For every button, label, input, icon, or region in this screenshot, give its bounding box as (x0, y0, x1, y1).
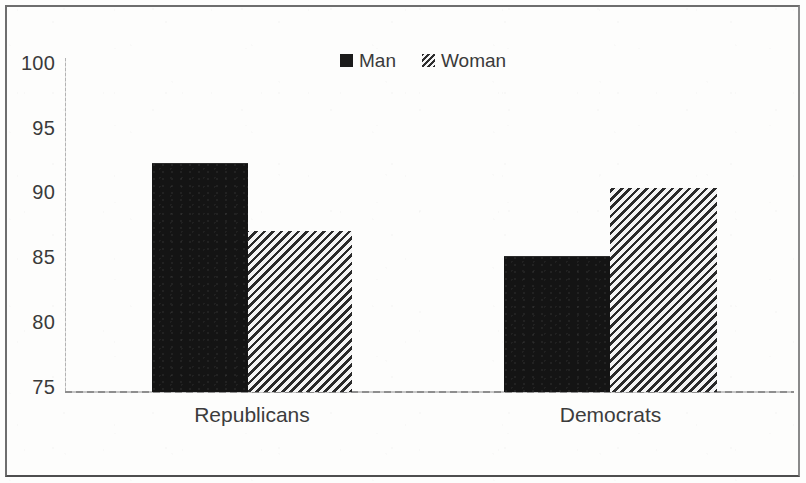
y-tick-label-85: 85 (32, 247, 55, 267)
y-tick-label-100: 100 (21, 53, 55, 73)
chart-legend: Man Woman (340, 48, 506, 72)
y-tick-label-75: 75 (32, 377, 55, 397)
legend-entry-woman: Woman (422, 51, 506, 70)
chart-plot-area: Man Woman 100 95 90 85 80 75 Republicans… (0, 0, 806, 483)
bar-democrats-man (504, 256, 610, 392)
bar-chart-figure: Man Woman 100 95 90 85 80 75 Republicans… (0, 0, 806, 483)
y-tick-label-90: 90 (32, 182, 55, 202)
bar-democrats-woman (610, 188, 717, 392)
y-tick-label-80: 80 (32, 312, 55, 332)
category-label-democrats: Democrats (504, 404, 717, 425)
legend-swatch-man-icon (340, 54, 353, 67)
y-tick-label-95: 95 (32, 118, 55, 138)
legend-label-man: Man (359, 51, 396, 70)
category-label-republicans: Republicans (152, 404, 352, 425)
legend-entry-man: Man (340, 51, 396, 70)
legend-label-woman: Woman (441, 51, 506, 70)
y-axis-tick-labels: 100 95 90 85 80 75 (0, 0, 55, 483)
legend-swatch-woman-icon (422, 54, 435, 67)
bar-republicans-man (152, 163, 248, 392)
y-axis-line (65, 58, 66, 392)
bar-republicans-woman (248, 231, 352, 392)
